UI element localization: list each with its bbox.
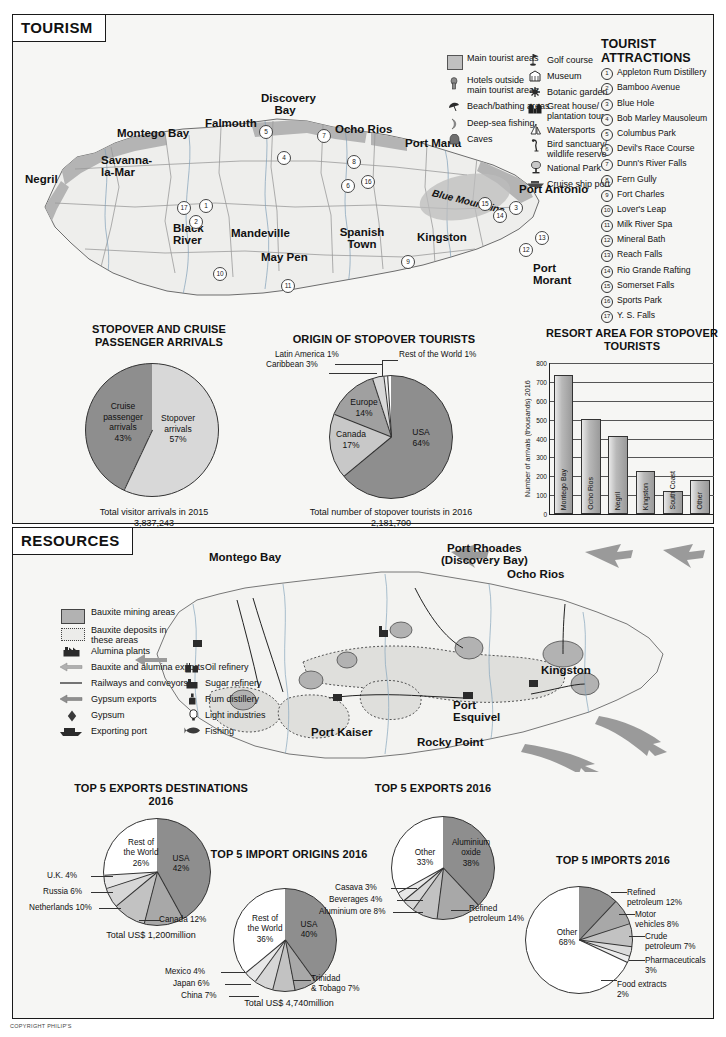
bar-category-label: Kingston <box>642 483 649 510</box>
legend-bauxite-mining: Bauxite mining areas <box>91 607 177 617</box>
map-marker-2: 2 <box>189 215 203 229</box>
attractions-heading-line1: TOURIST <box>601 37 656 51</box>
map-marker-13: 13 <box>535 231 549 245</box>
map-label-kingston: Kingston <box>417 231 467 243</box>
bar-gridline <box>550 401 714 402</box>
attraction-number: 7 <box>601 159 613 171</box>
map-label-spanish-town: Spanish Town <box>339 227 385 250</box>
attraction-item: 5Columbus Park <box>601 129 726 141</box>
map-marker-16: 16 <box>361 175 375 189</box>
legend-bauxite-deposits: Bauxite deposits in these areas <box>91 625 179 645</box>
res-map-label-port-kaiser: Port Kaiser <box>311 726 372 738</box>
bird-sanctuary-icon <box>531 139 542 153</box>
chart-title-origin: ORIGIN OF STOPOVER TOURISTS <box>279 333 489 346</box>
pie5-leader-china <box>229 996 259 997</box>
pie2-leader-carib <box>329 373 377 374</box>
pie6-label-other: Other 33% <box>405 848 445 869</box>
attraction-item: 6Devil's Race Course <box>601 144 726 156</box>
light-industries-icon <box>189 709 198 721</box>
map-marker-14: 14 <box>493 209 507 223</box>
chart-title-exports: TOP 5 EXPORTS 2016 <box>353 782 513 795</box>
cruise-ship-icon <box>527 179 545 188</box>
bar-y-tick: 600 <box>536 397 547 404</box>
attraction-label: Lover's Leap <box>617 205 666 214</box>
legend-rum-distillery: Rum distillery <box>205 694 259 704</box>
pie7-label-crude-petroleum: Crude petroleum 7% <box>645 932 705 953</box>
attractions-heading-line2: ATTRACTIONS <box>601 51 691 65</box>
pie4-label-usa: USA 42% <box>163 854 199 875</box>
bar-category-label: Negril <box>614 492 621 510</box>
golf-flag-icon <box>529 53 540 66</box>
bar-chart-ylabel: Number of arrivals (thousands) 2016 <box>521 363 533 515</box>
botanic-garden-icon <box>529 86 541 98</box>
legend-deep-sea-fishing: Deep-sea fishing <box>467 118 535 128</box>
attraction-number: 15 <box>601 281 613 293</box>
map-marker-5: 5 <box>259 125 273 139</box>
attraction-number: 12 <box>601 235 613 247</box>
pie5-label-mexico: Mexico 4% <box>165 968 205 977</box>
attraction-item: 7Dunn's River Falls <box>601 159 726 171</box>
bar-gridline <box>550 382 714 383</box>
chart-foot-exports-destinations: Total US$ 1,200million <box>61 930 241 941</box>
pie4-label-netherlands: Netherlands 10% <box>29 904 92 913</box>
pie7-leader-crude <box>629 936 645 937</box>
legend-light-industries: Light industries <box>205 710 266 720</box>
pie4-leader-uk <box>91 876 113 877</box>
cave-icon <box>449 134 460 145</box>
pie6-leader-beverages <box>397 900 423 901</box>
map-marker-15: 15 <box>478 197 492 211</box>
bar-category-label: South Coast <box>669 471 676 510</box>
pie-slice-divider <box>399 868 444 893</box>
chart-title-stopover-cruise: STOPOVER AND CRUISE PASSENGER ARRIVALS <box>59 323 259 349</box>
pie1-label-stopover: Stopover arrivals 57% <box>149 413 207 445</box>
map-marker-10: 10 <box>213 267 227 281</box>
attraction-label: Fort Charles <box>617 190 664 199</box>
map-label-ocho-rios: Ocho Rios <box>335 123 393 135</box>
copyright-notice: COPYRIGHT PHILIP'S <box>10 1023 72 1029</box>
bar-gridline <box>550 457 714 458</box>
res-map-label-montego-bay: Montego Bay <box>209 551 281 563</box>
hotel-icon <box>449 77 459 90</box>
gypsum-diamond-icon <box>67 710 77 722</box>
bar-category-label: Ocho Rios <box>587 477 594 510</box>
pie7-label-other: Other 68% <box>547 928 587 949</box>
map-marker-12: 12 <box>519 243 533 257</box>
legend-oil-refinery: Oil refinery <box>205 662 249 672</box>
attraction-label: Bamboo Avenue <box>617 83 680 92</box>
pie7-leader-food <box>601 980 617 981</box>
chart-title-exports-destinations: TOP 5 EXPORTS DESTINATIONS 2016 <box>61 782 261 808</box>
legend-bird-sanctuary: Bird sanctuary/ wildlife reserve <box>547 139 609 159</box>
tourist-attractions-list: TOURIST ATTRACTIONS 1Appleton Rum Distil… <box>601 37 726 323</box>
map-marker-8: 8 <box>347 155 361 169</box>
pie6-label-beverages: Beverages 4% <box>329 896 382 905</box>
pie2-leader-rest-v <box>382 360 383 376</box>
pie7-label-refined-petroleum: Refined petroleum 12% <box>627 888 691 909</box>
attraction-number: 9 <box>601 190 613 202</box>
attraction-number: 3 <box>601 99 613 111</box>
pie6-label-aluminium-oxide: Aluminium oxide 38% <box>445 838 497 869</box>
pie-slice-divider <box>443 868 479 906</box>
pie2-label-caribbean: Caribbean 3% <box>266 361 318 370</box>
pie4-leader-russia <box>91 892 113 893</box>
pie5-leader-japan <box>225 984 251 985</box>
pie2-leader-latin <box>335 364 383 365</box>
attraction-label: Milk River Spa <box>617 220 672 229</box>
map-label-savanna-la-mar: Savanna-la-Mar <box>101 155 163 178</box>
attraction-item: 3Blue Hole <box>601 99 726 111</box>
res-map-label-ocho-rios: Ocho Rios <box>507 568 565 580</box>
gypsum-export-arrow-icon <box>59 694 83 704</box>
bar-y-tick: 800 <box>536 360 547 367</box>
exporting-port-icon <box>59 726 83 737</box>
bar-y-tick: 300 <box>536 454 547 461</box>
attraction-label: Dunn's River Falls <box>617 159 686 168</box>
map-label-montego-bay: Montego Bay <box>117 127 189 139</box>
watersports-sailboat-icon <box>530 123 542 136</box>
map-label-falmouth: Falmouth <box>205 117 257 129</box>
pie2-label-rest-world: Rest of the World 1% <box>399 351 476 360</box>
pie2-label-usa: USA 64% <box>401 427 441 448</box>
chart-title-imports: TOP 5 IMPORTS 2016 <box>553 854 673 867</box>
pie2-label-europe: Europe 14% <box>343 397 385 418</box>
attraction-item: 15Somerset Falls <box>601 281 726 293</box>
alumina-plant-icon <box>63 646 80 657</box>
map-label-discovery-bay: Discovery Bay <box>261 93 309 116</box>
